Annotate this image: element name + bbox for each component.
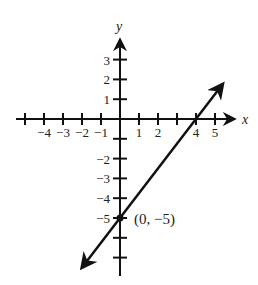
x-tick-label: −1	[94, 125, 108, 140]
y-tick-label: 3	[104, 53, 111, 68]
line-graph: −4−3−2−11245 321−2−3−4−5 x y (0, −5)	[0, 0, 258, 285]
y-tick-label: −4	[96, 191, 110, 206]
y-tick-label: 2	[104, 72, 111, 87]
x-tick-label: −3	[56, 125, 70, 140]
x-tick-label: 2	[155, 125, 162, 140]
y-tick-label: −3	[96, 171, 110, 186]
x-tick-label: 4	[193, 125, 200, 140]
x-tick-label: −4	[37, 125, 51, 140]
y-intercept-label: (0, −5)	[134, 211, 175, 228]
x-tick-label: −2	[75, 125, 89, 140]
x-tick-label: 5	[212, 125, 219, 140]
y-axis-label: y	[114, 19, 123, 34]
x-tick-label: 1	[136, 125, 143, 140]
y-tick-label: −5	[96, 211, 110, 226]
y-tick-label: 1	[104, 92, 111, 107]
y-intercept-point	[117, 215, 124, 222]
y-tick-label: −2	[96, 152, 110, 167]
x-axis-label: x	[241, 112, 249, 127]
